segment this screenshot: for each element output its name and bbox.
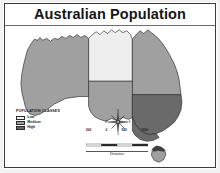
legend-label-medium: Medium [27,121,41,125]
scalebar-tick-0: 500 [86,129,91,132]
legend-item-low[interactable]: Low [16,115,78,120]
compass-label-west: W [105,120,108,124]
scalebar-graphic [86,143,148,147]
legend-item-high[interactable]: High [16,126,78,131]
map-title-band: Australian Population [5,4,215,26]
scalebar-tick-2: 500 [121,129,126,132]
region-northern-territory[interactable] [89,30,133,81]
legend-swatch-low [16,116,25,120]
legend-label-high: High [27,126,35,130]
scalebar-tick-3: 1000 [141,129,148,132]
map-frame-border: Australian Population [4,3,216,168]
compass-label-east: E [129,120,131,124]
map-legend: POPULATION CLASSES Low Medium High [16,110,78,131]
thematic-map-figure: Australian Population [0,0,220,173]
region-queensland[interactable] [132,30,181,95]
legend-label-low: Low [27,116,34,120]
scalebar-units-label: Kilometers [86,151,148,155]
map-scalebar: 500 0 500 1000 Kilometers [86,129,148,156]
scalebar-tick-1: 0 [105,129,107,132]
page-title: Australian Population [34,7,186,22]
legend-title: POPULATION CLASSES [16,110,78,114]
legend-item-medium[interactable]: Medium [16,121,78,126]
region-western-australia[interactable] [21,35,89,116]
scalebar-tick-labels: 500 0 500 1000 [86,129,148,132]
legend-swatch-medium [16,121,25,125]
legend-swatch-high [16,126,25,130]
compass-label-north: N [117,109,119,113]
